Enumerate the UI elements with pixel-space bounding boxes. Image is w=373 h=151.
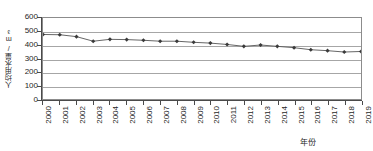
y-axis-tick-label: 500: [25, 27, 38, 35]
x-axis-tick-label: 2017: [331, 106, 339, 124]
series-line-人均用水量: [43, 34, 361, 52]
x-axis-tick-label: 2007: [163, 106, 171, 124]
x-axis-tick: [93, 101, 94, 105]
y-axis-tick-label: 200: [25, 68, 38, 76]
data-point-marker: [258, 43, 262, 47]
data-point-marker: [108, 37, 112, 41]
x-axis-tick: [76, 101, 77, 105]
x-axis-tick-label: 2003: [96, 106, 104, 124]
data-series-group: [43, 18, 361, 99]
x-axis-tick: [210, 101, 211, 105]
y-axis-tick-label: 400: [25, 41, 38, 49]
x-axis-tick: [311, 101, 312, 105]
x-axis-tick-label: 2018: [348, 106, 356, 124]
y-axis-tick: [37, 45, 41, 46]
x-axis-tick-label: 2014: [281, 106, 289, 124]
y-axis-tick: [37, 100, 41, 101]
x-axis-tick: [295, 101, 296, 105]
x-axis-tick-label: 2011: [230, 106, 238, 123]
x-axis-tick-label: 2004: [112, 106, 120, 124]
x-axis-tick: [227, 101, 228, 105]
x-axis-tick: [109, 101, 110, 105]
x-axis-title: 年份: [300, 138, 316, 147]
y-axis-tick: [37, 86, 41, 87]
x-axis-tick-label: 2006: [146, 106, 154, 124]
data-point-marker: [292, 46, 296, 50]
data-point-marker: [225, 42, 229, 46]
data-point-marker: [91, 39, 95, 43]
x-axis-tick-label: 2012: [247, 106, 255, 124]
x-axis-tick: [345, 101, 346, 105]
x-axis-tick-label: 2009: [197, 106, 205, 124]
y-axis-tick-label: 300: [25, 55, 38, 63]
data-point-marker: [208, 41, 212, 45]
data-point-marker: [175, 39, 179, 43]
data-point-marker: [58, 33, 62, 37]
data-point-marker: [192, 40, 196, 44]
x-axis-tick-label: 2016: [314, 106, 322, 124]
x-axis-tick-label: 2008: [180, 106, 188, 124]
x-axis-tick: [143, 101, 144, 105]
x-axis-tick: [244, 101, 245, 105]
x-axis-tick: [126, 101, 127, 105]
data-point-marker: [158, 39, 162, 43]
data-point-marker: [342, 50, 346, 54]
data-point-marker: [42, 32, 45, 36]
data-point-marker: [275, 44, 279, 48]
x-axis-tick-label: 2001: [62, 106, 70, 124]
x-axis-tick: [261, 101, 262, 105]
y-axis-tick-label: 600: [25, 13, 38, 21]
data-point-marker: [242, 44, 246, 48]
x-axis-tick-label: 2013: [264, 106, 272, 124]
x-axis-tick-label: 2010: [213, 106, 221, 124]
y-axis-tick: [37, 72, 41, 73]
y-axis-tick-label: 100: [25, 82, 38, 90]
y-axis-tick: [37, 17, 41, 18]
x-axis-spine: [42, 100, 362, 101]
x-axis-tick-label: 2005: [129, 106, 137, 124]
x-axis-tick: [362, 101, 363, 105]
x-axis-tick-label: 2002: [79, 106, 87, 124]
data-point-marker: [74, 35, 78, 39]
plot-area: [42, 17, 362, 100]
y-axis-tick: [37, 31, 41, 32]
y-axis-title: 人均用水量/m³: [2, 16, 16, 98]
data-point-marker: [141, 38, 145, 42]
series-marker-group: [42, 32, 362, 54]
x-axis-tick-label: 2019: [365, 106, 373, 124]
x-axis-tick: [42, 101, 43, 105]
data-point-marker: [325, 49, 329, 53]
x-axis-tick: [160, 101, 161, 105]
data-point-marker: [359, 49, 362, 53]
data-point-marker: [125, 38, 129, 42]
x-axis-tick: [59, 101, 60, 105]
x-axis-tick-label: 2015: [298, 106, 306, 124]
x-axis-tick-label: 2000: [45, 106, 53, 124]
x-axis-tick: [194, 101, 195, 105]
x-axis-tick: [278, 101, 279, 105]
data-point-marker: [309, 48, 313, 52]
x-axis-tick: [177, 101, 178, 105]
x-axis-tick: [328, 101, 329, 105]
y-axis-tick: [37, 59, 41, 60]
